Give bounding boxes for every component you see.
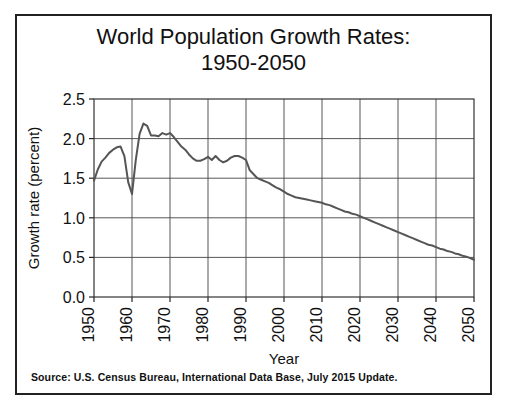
x-tick-label: 1960 (118, 307, 135, 343)
chart-figure: World Population Growth Rates:1950-2050 … (15, 14, 492, 395)
x-tick-label: 1970 (156, 307, 173, 343)
x-tick-label: 2040 (422, 307, 439, 343)
y-tick-label: 0.0 (63, 289, 85, 306)
x-axis-ticks: 1950196019701980199020002010202020302040… (80, 297, 477, 343)
y-tick-label: 0.5 (63, 249, 85, 266)
x-tick-label: 2000 (270, 307, 287, 343)
x-tick-label: 2010 (308, 307, 325, 343)
y-axis-label: Growth rate (percent) (25, 127, 42, 270)
y-tick-label: 1.0 (63, 210, 85, 227)
y-tick-label: 2.0 (63, 131, 85, 148)
x-tick-label: 1980 (194, 307, 211, 343)
x-axis-label: Year (269, 350, 299, 367)
x-tick-label: 2030 (384, 307, 401, 343)
y-tick-label: 2.5 (63, 91, 85, 108)
source-note: Source: U.S. Census Bureau, Internationa… (31, 371, 397, 383)
y-axis-ticks: 0.00.51.01.52.02.5 (63, 91, 94, 306)
x-tick-label: 2020 (346, 307, 363, 343)
x-tick-label: 1990 (232, 307, 249, 343)
chart-plot: 0.00.51.01.52.02.5 195019601970198019902… (17, 16, 492, 395)
y-tick-label: 1.5 (63, 170, 85, 187)
gridlines (94, 99, 474, 297)
x-tick-label: 2050 (460, 307, 477, 343)
x-tick-label: 1950 (80, 307, 97, 343)
